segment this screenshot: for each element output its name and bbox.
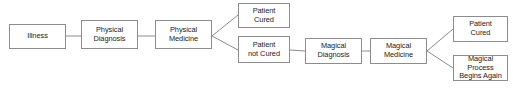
node-label-physical_diag: Physical Diagnosis — [82, 26, 137, 43]
connector-magical-medicine-to-begins-again — [427, 51, 453, 68]
connector-physical-medicine-to-patient-cured — [212, 15, 238, 36]
node-physical_med: Physical Medicine — [155, 20, 212, 49]
connector-physical-medicine-to-not-cured — [212, 36, 238, 50]
node-label-patient_not_cured: Patient not Cured — [239, 41, 289, 58]
connector-magical-medicine-to-patient-cured — [427, 29, 453, 51]
node-patient_not_cured: Patient not Cured — [238, 36, 290, 63]
flowchart-canvas: IllnessPhysical DiagnosisPhysical Medici… — [0, 0, 513, 89]
node-magical_med: Magical Medicine — [370, 38, 427, 64]
node-physical_diag: Physical Diagnosis — [81, 20, 138, 49]
node-label-patient_cured_2: Patient Cured — [454, 20, 507, 37]
node-label-illness: Illness — [10, 32, 65, 41]
node-label-magical_diag: Magical Diagnosis — [306, 42, 361, 59]
node-magical_diag: Magical Diagnosis — [305, 38, 362, 64]
node-magical_again: Magical Process Begins Again — [453, 55, 508, 81]
node-label-magical_med: Magical Medicine — [371, 42, 426, 59]
node-patient_cured_1: Patient Cured — [238, 3, 290, 28]
node-label-patient_cured_1: Patient Cured — [239, 7, 289, 24]
node-label-physical_med: Physical Medicine — [156, 26, 211, 43]
connector-not-cured-to-magical-diagnosis — [290, 50, 305, 51]
node-patient_cured_2: Patient Cured — [453, 16, 508, 42]
node-label-magical_again: Magical Process Begins Again — [454, 55, 507, 81]
node-illness: Illness — [9, 24, 66, 49]
